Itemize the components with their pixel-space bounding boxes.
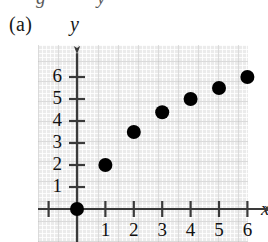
x-tick-label: 6 — [237, 219, 257, 241]
x-tick-label: 4 — [181, 219, 201, 241]
data-point — [127, 125, 141, 139]
data-point — [155, 105, 169, 119]
scatter-plot — [0, 0, 268, 242]
y-tick-label: 6 — [42, 65, 62, 87]
x-tick-label: 5 — [209, 219, 229, 241]
y-tick-label: 5 — [42, 87, 62, 109]
y-tick-label: 4 — [42, 109, 62, 131]
x-tick-label: 1 — [95, 219, 115, 241]
data-point — [212, 81, 226, 95]
data-point — [98, 158, 112, 172]
y-tick-label: 2 — [42, 153, 62, 175]
data-point — [70, 202, 84, 216]
y-tick-label: 1 — [42, 175, 62, 197]
x-tick-label: 2 — [124, 219, 144, 241]
data-point — [240, 70, 254, 84]
y-tick-label: 3 — [42, 131, 62, 153]
data-point — [184, 92, 198, 106]
x-tick-label: 3 — [152, 219, 172, 241]
